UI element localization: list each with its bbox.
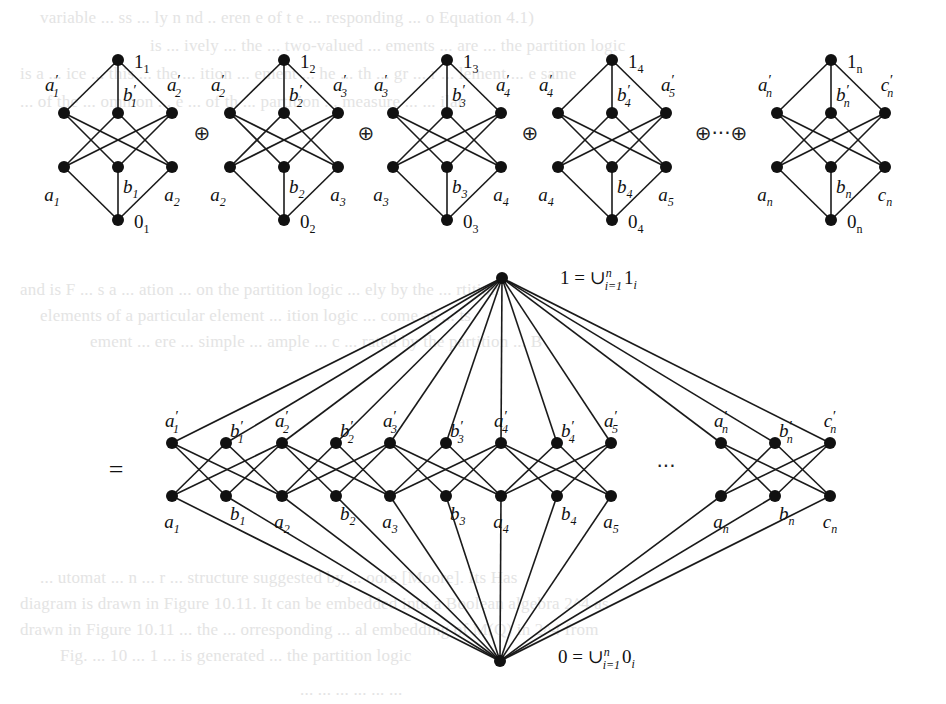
node-upper: [441, 107, 453, 119]
label-lower-mid: b4: [617, 176, 633, 201]
node-lower: [552, 161, 564, 173]
node-upper-combined: [384, 437, 396, 449]
label-lower-mid: b1: [123, 176, 139, 201]
label-lower-mid: b2: [289, 176, 305, 201]
lattice-diagram: 1101a′1b′1a′2a1b1a21202a′2b′2a′3a2b2a313…: [0, 0, 946, 704]
direct-sum-operator: ⊕: [358, 121, 375, 145]
label-lower-combined: a3: [382, 511, 398, 536]
node-bottom: [112, 214, 124, 226]
node-lower-combined: [824, 490, 836, 502]
node-upper: [58, 107, 70, 119]
edge-bottom-combined: [390, 496, 500, 661]
edge-top-combined: [502, 278, 557, 443]
label-upper-combined: a′4: [494, 408, 508, 436]
node-upper: [660, 107, 672, 119]
label-upper-combined: a′5: [604, 408, 618, 436]
label-lower-combined: a5: [603, 511, 619, 536]
node-bottom: [606, 214, 618, 226]
node-bottom-combined: [494, 655, 506, 667]
label-lower-mid: bn: [836, 176, 852, 201]
label-upper-combined: b′3: [450, 418, 464, 446]
label-top-Ln: 1n: [847, 51, 863, 76]
edge-top-combined: [502, 278, 830, 443]
node-top: [278, 54, 290, 66]
edge-bottom: [777, 167, 831, 220]
node-upper: [606, 107, 618, 119]
label-lower-combined: bn: [779, 503, 795, 528]
label-bottom-L1: 01: [134, 211, 150, 236]
node-lower-combined: [166, 490, 178, 502]
label-upper-combined: b′n: [779, 418, 793, 446]
edge-bottom: [64, 167, 118, 220]
label-top-L2: 12: [300, 51, 316, 76]
label-upper-mid: b′1: [123, 82, 137, 110]
node-lower: [606, 161, 618, 173]
node-lower-combined: [220, 490, 232, 502]
label-lower-right: a2: [164, 184, 180, 209]
node-lower: [387, 161, 399, 173]
edge-bottom: [558, 167, 612, 220]
label-upper-combined: b′1: [230, 418, 244, 446]
node-bottom: [441, 214, 453, 226]
node-lower-combined: [440, 490, 452, 502]
node-lower: [771, 161, 783, 173]
label-upper-combined: a′3: [383, 408, 397, 436]
label-lower-left: an: [757, 184, 773, 209]
edges-layer: [64, 60, 885, 661]
label-lower-combined: a1: [164, 511, 180, 536]
label-lower-left: a4: [538, 184, 554, 209]
label-lower-combined: cn: [823, 511, 837, 536]
label-upper-left: a′3: [374, 72, 388, 100]
label-upper-mid: b′n: [836, 82, 850, 110]
label-upper-left: a′n: [758, 72, 772, 100]
node-upper: [552, 107, 564, 119]
label-upper-combined: c′n: [824, 408, 837, 436]
label-lower-right: cn: [878, 184, 892, 209]
label-lower-right: a5: [658, 184, 674, 209]
node-upper: [166, 107, 178, 119]
node-upper-combined: [824, 437, 836, 449]
node-bottom: [278, 214, 290, 226]
edge-top-combined: [336, 278, 502, 443]
node-lower-combined: [605, 490, 617, 502]
node-bottom: [825, 214, 837, 226]
node-lower: [58, 161, 70, 173]
node-upper: [112, 107, 124, 119]
ellipsis: ···: [656, 454, 675, 478]
edge-bottom-combined: [336, 496, 500, 661]
node-top: [112, 54, 124, 66]
label-upper-right: a′4: [496, 72, 510, 100]
edge-top: [230, 60, 284, 113]
node-lower-combined: [384, 490, 396, 502]
node-upper-combined: [605, 437, 617, 449]
node-lower: [825, 161, 837, 173]
edge-top: [393, 60, 447, 113]
label-top-L1: 11: [134, 51, 150, 76]
edge-top-combined: [172, 278, 502, 443]
label-lower-right: a4: [493, 184, 509, 209]
label-upper-left: a′2: [211, 72, 225, 100]
label-upper-combined: a′2: [275, 408, 289, 436]
node-lower: [495, 161, 507, 173]
node-lower: [441, 161, 453, 173]
label-upper-left: a′1: [45, 72, 59, 100]
node-upper-combined: [276, 437, 288, 449]
label-upper-combined: a′1: [165, 408, 179, 436]
node-upper-combined: [715, 437, 727, 449]
node-lower: [879, 161, 891, 173]
label-lower-combined: b3: [450, 503, 466, 528]
label-upper-mid: b′4: [617, 82, 631, 110]
direct-sum-operator: ⊕: [194, 121, 211, 145]
node-lower-combined: [769, 490, 781, 502]
label-upper-left: a′4: [539, 72, 553, 100]
bottom-union-label: 0 = ∪ni=10i: [558, 645, 635, 672]
label-upper-right: a′3: [333, 72, 347, 100]
node-lower: [660, 161, 672, 173]
node-lower: [112, 161, 124, 173]
node-top: [441, 54, 453, 66]
node-upper: [224, 107, 236, 119]
label-upper-right: a′2: [167, 72, 181, 100]
label-lower-left: a1: [44, 184, 60, 209]
label-upper-mid: b′2: [289, 82, 303, 110]
label-bottom-L3: 03: [463, 211, 479, 236]
